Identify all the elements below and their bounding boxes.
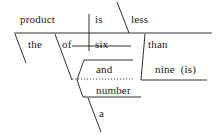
diagram-line-conj-upper-slant — [77, 60, 84, 80]
diagram-line-conj-lower-slant — [77, 80, 83, 97]
diagram-word-product: product — [20, 14, 55, 25]
diagram-word-six: six — [95, 39, 108, 50]
diagram-word-than: than — [148, 39, 168, 50]
diagram-word-of: of — [62, 39, 72, 50]
diagram-word-less: less — [131, 14, 148, 25]
diagram-word-number: number — [96, 85, 131, 96]
diagram-word-a: a — [99, 108, 104, 119]
diagram-line-the-modifier-slant — [15, 34, 26, 63]
diagram-word-nine-is: nine (is) — [155, 64, 196, 75]
diagram-line-predicate-adjective-slant — [117, 2, 129, 33]
diagram-word-is: is — [95, 14, 103, 25]
sentence-diagram-canvas: productislesstheofsixthanandnine (is)num… — [0, 0, 218, 135]
diagram-word-the: the — [28, 39, 42, 50]
diagram-word-and: and — [96, 64, 112, 75]
diagram-line-than-prep-slant — [141, 34, 145, 80]
